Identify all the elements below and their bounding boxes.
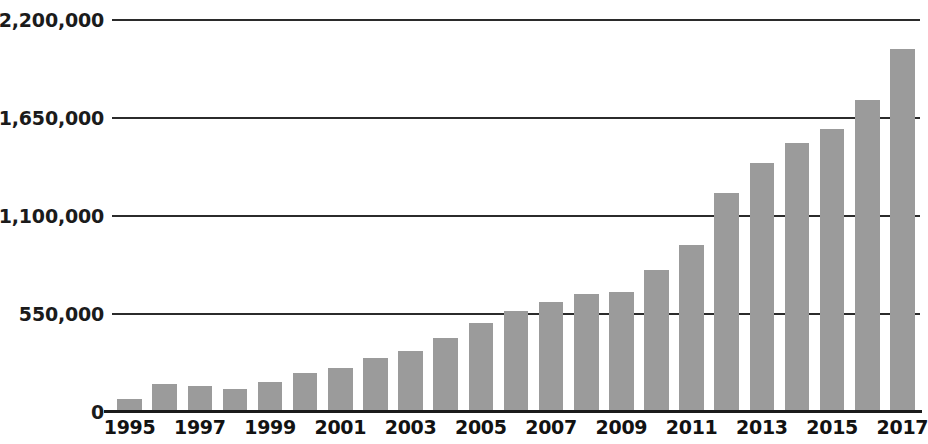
x-tick-label-2003: 2003 xyxy=(385,416,437,438)
x-tick-label-2005: 2005 xyxy=(455,416,507,438)
plot-area xyxy=(112,0,920,444)
x-tick-label-2001: 2001 xyxy=(315,416,367,438)
bar-2012 xyxy=(714,193,739,412)
x-axis-baseline xyxy=(104,410,922,413)
bar-2000 xyxy=(293,373,318,412)
bar-2008 xyxy=(574,294,599,412)
bar-2009 xyxy=(609,292,634,412)
bar-2006 xyxy=(504,311,529,412)
x-tick-label-2017: 2017 xyxy=(877,416,928,438)
y-tick-label-2: 1,100,000 xyxy=(0,205,104,227)
bar-2002 xyxy=(363,358,388,412)
bar-2004 xyxy=(433,338,458,412)
x-tick-label-2013: 2013 xyxy=(736,416,788,438)
bar-1998 xyxy=(223,389,248,412)
bar-2010 xyxy=(644,270,669,412)
x-tick-label-1997: 1997 xyxy=(174,416,226,438)
bar-2017 xyxy=(890,49,915,412)
x-tick-label-2011: 2011 xyxy=(666,416,718,438)
y-tick-label-4: 2,200,000 xyxy=(0,9,104,31)
bar-2007 xyxy=(539,302,564,412)
bar-2015 xyxy=(820,129,845,412)
x-tick-label-1999: 1999 xyxy=(244,416,296,438)
bar-2016 xyxy=(855,100,880,412)
y-tick-label-1: 550,000 xyxy=(19,303,104,325)
bar-2013 xyxy=(750,163,775,412)
bar-2001 xyxy=(328,368,353,412)
y-tick-label-0: 0 xyxy=(91,401,104,423)
bar-1997 xyxy=(188,386,213,412)
bar-1996 xyxy=(152,384,177,413)
y-tick-label-3: 1,650,000 xyxy=(0,107,104,129)
x-tick-label-2007: 2007 xyxy=(525,416,577,438)
x-tick-label-1995: 1995 xyxy=(104,416,156,438)
x-tick-label-2009: 2009 xyxy=(596,416,648,438)
bar-2005 xyxy=(469,323,494,412)
bar-2011 xyxy=(679,245,704,412)
bar-chart: 0550,0001,100,0001,650,0002,200,000 1995… xyxy=(0,0,928,444)
y-axis: 0550,0001,100,0001,650,0002,200,000 xyxy=(0,0,112,444)
bar-1999 xyxy=(258,382,283,412)
x-axis: 1995199719992001200320052007200920112013… xyxy=(112,416,920,444)
x-tick-label-2015: 2015 xyxy=(806,416,858,438)
bar-2014 xyxy=(785,143,810,412)
bar-2003 xyxy=(398,351,423,412)
